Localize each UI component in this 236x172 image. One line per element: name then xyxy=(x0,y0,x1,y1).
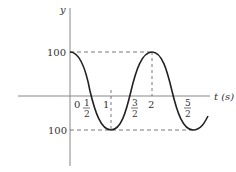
tick-5half-num: 5 xyxy=(185,98,191,108)
tick-1-label: 1 xyxy=(103,99,109,110)
tick-0-label: 0 xyxy=(74,99,80,110)
tick-5half-den: 2 xyxy=(185,109,191,119)
tick-3half-num: 3 xyxy=(132,98,138,108)
tick-3half-den: 2 xyxy=(132,109,138,119)
y-axis-label: y xyxy=(59,4,66,15)
y-bottom-tick-label: 100 xyxy=(48,125,67,136)
tick-half-num: 1 xyxy=(84,98,90,108)
x-axis-label: t (s) xyxy=(214,91,234,102)
tick-2-label: 2 xyxy=(148,99,154,110)
tick-half-den: 2 xyxy=(84,109,90,119)
cosine-wave-chart: y t (s) 100 100 0 1 2 1 3 2 2 5 2 xyxy=(0,0,236,172)
y-top-tick-label: 100 xyxy=(47,47,66,58)
